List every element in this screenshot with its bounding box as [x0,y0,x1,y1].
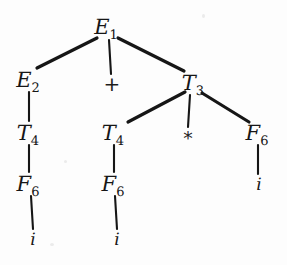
node-symbol: i [114,230,119,250]
parse-tree-figure: E1E2+T3T4T4*F6F6F6iii [0,0,287,265]
tree-edge-F6L-to-IL [31,196,33,229]
tree-node-e1: E1 [94,17,118,38]
tree-node-im: i [114,232,119,249]
tree-edge-T3-to-T4M [128,92,185,122]
tree-edge-E1-to-E2 [37,38,97,68]
node-symbol: T [102,121,116,145]
node-symbol: T [182,71,196,95]
node-symbol: F [246,121,261,145]
node-subscript: 4 [116,134,124,149]
node-symbol: F [17,172,32,196]
paper-speck [202,14,205,18]
tree-edge-E1-to-PLUS [109,40,111,74]
tree-edge-T3-to-STAR [188,95,190,127]
tree-node-f6m: F6 [102,174,125,195]
paper-speck [64,160,67,163]
node-subscript: 3 [196,84,204,99]
tree-node-star: * [183,127,193,146]
tree-node-il: i [30,232,35,249]
tree-node-ir: i [256,177,261,194]
tree-node-t4l: T4 [17,123,39,144]
node-subscript: 6 [31,185,39,200]
tree-edge-E1-to-T3 [118,38,184,71]
tree-node-f6l: F6 [17,174,40,195]
paper-speck [50,243,54,246]
tree-edge-T3-to-F6R [202,93,249,122]
tree-edges [0,0,287,265]
node-symbol: E [16,68,31,92]
node-subscript: 6 [260,134,268,149]
node-subscript: 4 [31,134,39,149]
node-symbol: * [183,128,193,150]
node-symbol: E [94,15,109,39]
node-subscript: 6 [116,185,124,200]
node-symbol: + [104,72,121,96]
tree-node-t4m: T4 [102,123,124,144]
node-symbol: i [256,175,261,195]
tree-node-t3: T3 [182,73,204,94]
node-symbol: T [17,121,31,145]
tree-edge-F6M-to-IM [115,196,117,229]
node-symbol: i [30,230,35,250]
tree-node-plus: + [104,74,121,94]
tree-node-e2: E2 [16,70,40,91]
node-subscript: 2 [32,81,40,96]
node-symbol: F [102,172,117,196]
node-subscript: 1 [110,28,118,43]
tree-node-f6r: F6 [246,123,269,144]
